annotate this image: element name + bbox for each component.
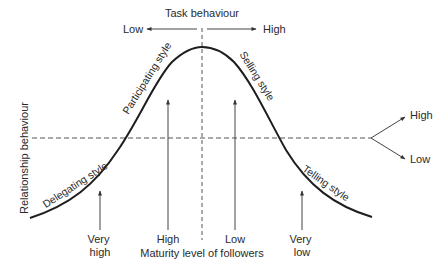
task-behaviour-title: Task behaviour [165, 7, 239, 19]
task-low-label: Low [123, 23, 143, 35]
relationship-high-label: High [410, 109, 433, 121]
relationship-low-label: Low [410, 153, 430, 165]
relationship-low-arrow [371, 138, 405, 159]
maturity-very-high-label: Very high [87, 233, 112, 258]
bell-curve [30, 47, 372, 218]
delegating-style-label: Delegating style [40, 159, 109, 210]
maturity-very-low-label: Very low [289, 233, 314, 258]
leadership-styles-diagram: Task behaviour Low High Relationship beh… [0, 0, 446, 268]
maturity-axis-title: Maturity level of followers [140, 247, 264, 259]
participating-style-label: Participating style [120, 40, 174, 116]
relationship-high-arrow [371, 117, 405, 138]
relationship-behaviour-title: Relationship behaviour [18, 102, 30, 214]
selling-style-label: Selling style [237, 49, 277, 103]
maturity-high-label: High [157, 233, 180, 245]
maturity-low-label: Low [225, 233, 245, 245]
telling-style-label: Telling style [301, 162, 352, 203]
task-high-label: High [263, 23, 286, 35]
